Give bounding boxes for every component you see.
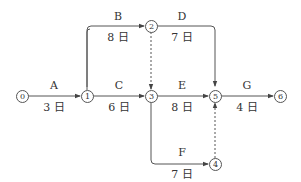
activity-f-name: F — [162, 147, 202, 159]
activity-e-duration: 8 日 — [162, 102, 202, 114]
activity-c-duration: 6 日 — [99, 102, 139, 114]
node-6: 6 — [274, 90, 287, 103]
node-5: 5 — [209, 90, 222, 103]
activity-e-name: E — [162, 80, 202, 92]
activity-d-duration: 7 日 — [162, 32, 202, 44]
activity-g-name: G — [227, 80, 267, 92]
activity-g-duration: 4 日 — [227, 102, 267, 114]
node-1: 1 — [81, 90, 94, 103]
activity-a-duration: 3 日 — [34, 102, 74, 114]
activity-a-name: A — [34, 80, 74, 92]
activity-f-duration: 7 日 — [162, 169, 202, 181]
activity-b-duration: 8 日 — [98, 32, 138, 44]
activity-c-name: C — [99, 80, 139, 92]
node-4: 4 — [209, 158, 222, 171]
node-3: 3 — [145, 90, 158, 103]
node-0: 0 — [16, 90, 29, 103]
node-2: 2 — [145, 20, 158, 33]
activity-d-name: D — [162, 11, 202, 23]
activity-b-name: B — [98, 11, 138, 23]
